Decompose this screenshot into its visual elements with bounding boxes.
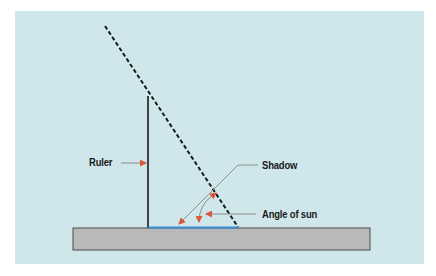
shadow-label: Shadow [262,159,297,171]
ruler-label: Ruler [89,156,112,168]
sun-angle-diagram [0,0,436,276]
shadow-leader-arrow [179,165,258,224]
sun-ray-dashed [105,26,238,227]
ground-surface [73,228,370,250]
angle-of-sun-label: Angle of sun [262,208,317,220]
angle-arc-arrow [199,196,212,222]
